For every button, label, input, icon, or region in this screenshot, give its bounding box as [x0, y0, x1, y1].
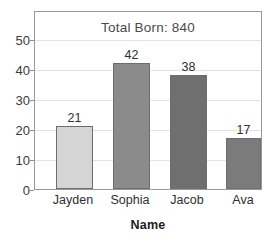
plot-area: Total Born: 840 21 42 38 17 — [34, 11, 262, 190]
bar-sophia — [113, 63, 150, 189]
y-tick-label: 30 — [6, 94, 30, 107]
gridline-50 — [35, 40, 261, 41]
bar-value-ava: 17 — [226, 124, 261, 137]
x-axis-title: Name — [34, 218, 262, 232]
x-axis: Jayden Sophia Jacob Ava — [34, 194, 262, 214]
bar-value-jayden: 21 — [56, 112, 93, 125]
y-tick-mark — [29, 190, 34, 191]
bar-jayden — [56, 126, 93, 189]
bar-value-sophia: 42 — [113, 49, 150, 62]
y-tick-label: 40 — [6, 64, 30, 77]
y-tick-label: 0 — [6, 184, 30, 197]
bar-chart: 50 40 30 20 10 0 Total Born: 840 21 42 3… — [0, 0, 276, 250]
bar-jacob — [170, 75, 207, 189]
y-tick-label: 20 — [6, 124, 30, 137]
bar-value-jacob: 38 — [170, 61, 207, 74]
y-tick-label: 50 — [6, 34, 30, 47]
y-tick-label: 10 — [6, 154, 30, 167]
y-axis: 50 40 30 20 10 0 — [4, 0, 30, 250]
bar-ava — [226, 138, 261, 189]
x-tick-label-ava: Ava — [210, 194, 276, 207]
chart-title: Total Born: 840 — [35, 20, 261, 35]
